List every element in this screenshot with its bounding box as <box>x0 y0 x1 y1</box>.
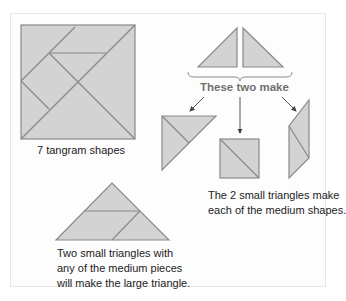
medium-caption-line2: each of the medium shapes. <box>208 203 346 217</box>
medium-caption-line1: The 2 small triangles make <box>208 188 339 202</box>
tangram-square <box>21 25 135 139</box>
medium-triangle <box>162 116 216 170</box>
small-triangles <box>198 28 283 67</box>
square-caption: 7 tangram shapes <box>37 143 125 157</box>
brace <box>188 72 292 81</box>
large-triangle <box>56 183 169 240</box>
large-caption-line1: Two small triangles with <box>57 246 173 260</box>
parallelogram <box>289 100 309 178</box>
small-triangles-label: These two make <box>200 81 289 93</box>
large-caption-line3: will make the large triangle. <box>57 276 190 290</box>
large-caption-line2: any of the medium pieces <box>57 261 182 275</box>
arrows <box>190 97 296 133</box>
medium-square <box>220 139 259 178</box>
